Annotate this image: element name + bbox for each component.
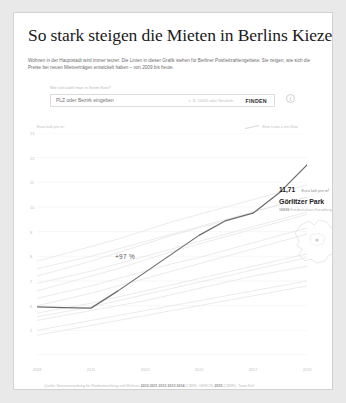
y-axis-tick: 7 bbox=[30, 279, 32, 284]
x-axis-tick: 2015 bbox=[195, 367, 204, 372]
x-axis-tick: 2017 bbox=[249, 367, 258, 372]
series-tooltip: 11,71 Euro kalt pro m² Görlitzer Park 10… bbox=[279, 178, 333, 212]
legend-label: Eine Linie = ein Kiez bbox=[262, 125, 298, 129]
search-hint-text: z. B. 10435 oder Neukölln bbox=[161, 99, 239, 103]
source-year-2015: 2015 bbox=[215, 384, 223, 388]
tooltip-value: 11,71 bbox=[279, 186, 295, 193]
tooltip-kiez-name: Görlitzer Park bbox=[279, 198, 333, 205]
tooltip-unit: Euro kalt pro m² bbox=[302, 188, 330, 193]
kiez-search-block: Wie viel zahlt man in Ihrem Kiez? z. B. … bbox=[50, 85, 310, 107]
y-axis-tick: 6 bbox=[30, 303, 32, 308]
legend-line-icon bbox=[245, 125, 259, 129]
y-axis-tick: 8 bbox=[30, 254, 32, 259]
y-axis-tick: 9 bbox=[30, 229, 32, 234]
x-axis-tick: 2011 bbox=[87, 367, 95, 372]
berlin-minimap bbox=[281, 211, 333, 273]
source-prefix: Quelle: Senatsverwaltung für Stadtentwic… bbox=[44, 384, 140, 388]
tooltip-district: Friedrichshain-Kreuzberg bbox=[290, 208, 331, 212]
chart-legend: Eine Linie = ein Kiez bbox=[245, 125, 298, 129]
y-axis-tick: 11 bbox=[30, 180, 34, 185]
y-axis-tick: 12 bbox=[30, 155, 34, 160]
y-axis-tick: 5 bbox=[30, 328, 32, 333]
chart-source: Quelle: Senatsverwaltung für Stadtentwic… bbox=[44, 384, 324, 389]
chart-svg bbox=[37, 133, 307, 355]
x-axis-tick: 2013 bbox=[141, 367, 150, 372]
search-input[interactable] bbox=[51, 95, 161, 106]
y-axis-title: Euro kalt pro m² bbox=[37, 125, 65, 129]
page-title: So stark steigen die Mieten in Berlins K… bbox=[28, 25, 324, 46]
tooltip-postal-code: 10999 bbox=[279, 208, 289, 212]
tooltip-location: 10999 Friedrichshain-Kreuzberg bbox=[279, 208, 333, 212]
find-button[interactable]: FINDEN bbox=[239, 97, 274, 105]
source-years: 2010 2011 2012 2013 2014 bbox=[141, 384, 185, 388]
x-axis-tick: 2009 bbox=[33, 367, 42, 372]
search-label: Wie viel zahlt man in Ihrem Kiez? bbox=[50, 85, 310, 91]
source-suffix: (CBRE), Team-Null bbox=[224, 384, 255, 388]
chart-plot-area: 1312111098765 200920112013201520172019 +… bbox=[37, 133, 307, 355]
article-card: So stark steigen die Mieten in Berlins K… bbox=[13, 12, 333, 390]
rent-line-chart: Euro kalt pro m² Eine Linie = ein Kiez 1… bbox=[28, 125, 320, 377]
source-mid: (CBRE, GEWOS) bbox=[185, 384, 213, 388]
article-standfirst: Wohnen in der Hauptstadt wird immer teur… bbox=[28, 57, 324, 72]
x-axis-tick: 2019 bbox=[303, 367, 312, 372]
search-bar[interactable]: z. B. 10435 oder Neukölln FINDEN bbox=[50, 94, 275, 107]
info-icon[interactable]: i bbox=[286, 94, 295, 103]
y-axis-tick: 13 bbox=[30, 131, 34, 136]
y-axis-tick: 10 bbox=[30, 205, 34, 210]
berlin-map-icon bbox=[281, 211, 333, 273]
growth-annotation: +97 % bbox=[115, 253, 135, 260]
screenshot-root: So stark steigen die Mieten in Berlins K… bbox=[0, 0, 346, 403]
